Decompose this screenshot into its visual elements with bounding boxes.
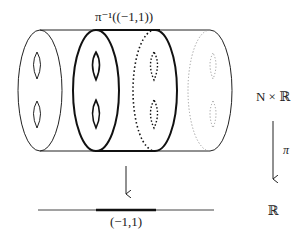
fiber-preimage-right <box>133 30 177 151</box>
fiber-right-hidden-arc <box>188 30 210 151</box>
interval-label: (−1,1) <box>110 214 142 229</box>
fiber-preimage-left <box>73 30 119 151</box>
total-space-label: N × ℝ <box>256 89 291 104</box>
fiber-preimage-left-hole-top <box>93 52 100 80</box>
fiber-right <box>188 30 216 151</box>
fiber-left-hole-bottom <box>34 101 41 128</box>
fiber-preimage-left-outline <box>73 30 119 151</box>
fiber-preimage-right-hole-bottom <box>151 100 158 128</box>
preimage-label: π⁻¹((−1,1)) <box>95 9 153 24</box>
fiber-right-hole-bottom <box>210 101 216 128</box>
cylinder-right-cap <box>210 30 232 151</box>
fibration-diagram: π⁻¹((−1,1)) N × ℝ π ℝ <box>0 0 305 236</box>
fiber-preimage-right-hidden-arc <box>133 30 155 151</box>
fiber-preimage-right-hole-top <box>151 52 158 80</box>
fiber-left <box>18 30 62 151</box>
projection-label: π <box>283 143 290 157</box>
fiber-left-hole-top <box>34 52 41 79</box>
base-space-label: ℝ <box>268 203 280 218</box>
cylinder <box>40 30 232 151</box>
fiber-left-outline <box>18 30 62 151</box>
fiber-preimage-right-front-arc <box>155 30 177 151</box>
fiber-preimage-left-hole-bottom <box>93 100 100 128</box>
fiber-right-hole-top <box>210 53 216 79</box>
